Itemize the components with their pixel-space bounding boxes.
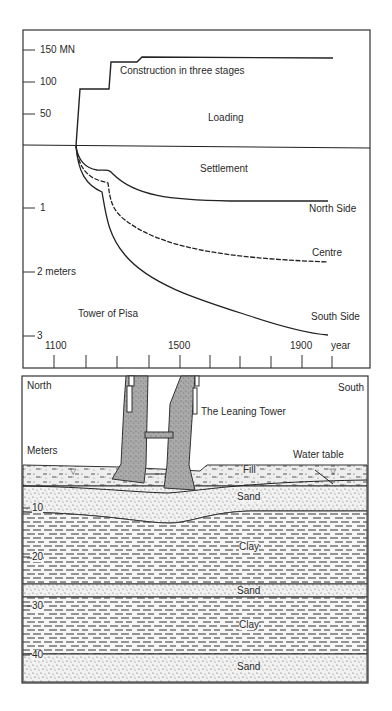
tick-100: 100: [40, 77, 57, 87]
construction-label: Construction in three stages: [120, 66, 245, 76]
clay-layer-2: [23, 597, 367, 654]
sand-layer-2-label: Sand: [237, 586, 260, 596]
south-side-label: South Side: [311, 312, 360, 322]
tower-of-pisa-label: Tower of Pisa: [78, 309, 138, 319]
pisa-figure: ▽ ▽: [0, 0, 392, 711]
sand-layer-3: [23, 654, 367, 682]
north-side-label: North Side: [309, 204, 356, 214]
meters-label: Meters: [27, 446, 58, 456]
sand-layer-1-label: Sand: [237, 492, 260, 502]
sand-layer-2: [23, 584, 367, 597]
tick-3m: 3: [37, 331, 43, 341]
centre-label: Centre: [312, 248, 342, 258]
tick-1m: 1: [40, 203, 46, 213]
tower-floor: [145, 432, 173, 438]
depth-40: 40: [32, 650, 43, 660]
svg-text:▽: ▽: [330, 467, 337, 476]
fill-layer-label: Fill: [243, 465, 256, 475]
loading-label: Loading: [208, 113, 244, 123]
leaning-tower-label: The Leaning Tower: [201, 407, 286, 417]
water-table-label: Water table: [293, 450, 344, 460]
tick-2m: 2 meters: [37, 267, 76, 277]
depth-10: 10: [32, 503, 43, 513]
year-1900: 1900: [290, 341, 312, 351]
soil-profile-diagram: ▽ ▽: [22, 376, 368, 683]
north-label: North: [27, 381, 51, 391]
year-1500: 1500: [168, 341, 190, 351]
tick-50: 50: [40, 109, 51, 119]
settlement-label: Settlement: [200, 164, 248, 174]
depth-20: 20: [32, 552, 43, 562]
tick-150: 150 MN: [40, 45, 75, 55]
sand-layer-3-label: Sand: [237, 662, 260, 672]
clay-layer-1: [23, 511, 367, 584]
clay-layer-1-label: Clay: [239, 542, 259, 552]
year-1100: 1100: [45, 341, 67, 351]
south-label: South: [338, 383, 364, 393]
year-axis-label: year: [331, 341, 350, 351]
depth-30: 30: [32, 601, 43, 611]
svg-text:▽: ▽: [70, 467, 77, 476]
clay-layer-2-label: Clay: [239, 620, 259, 630]
